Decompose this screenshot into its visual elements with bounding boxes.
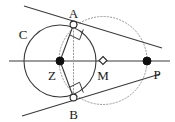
label-circle-c: C — [19, 27, 28, 42]
label-point-m: M — [97, 68, 109, 83]
radius-segment-zb — [60, 61, 74, 98]
point-marker-p — [143, 57, 151, 65]
point-marker-b — [70, 94, 77, 101]
geometry-diagram: C Z A B M P — [0, 0, 175, 122]
right-angle-marker-at-a — [70, 29, 84, 39]
point-marker-a — [70, 21, 77, 28]
point-marker-z — [56, 57, 64, 65]
label-point-b: B — [69, 107, 78, 122]
tangent-line-through-a — [24, 6, 162, 48]
point-marker-m — [99, 57, 107, 65]
figure-canvas: C Z A B M P — [0, 0, 175, 122]
label-point-z: Z — [48, 68, 56, 83]
label-point-p: P — [153, 67, 160, 82]
label-point-a: A — [69, 6, 79, 21]
radius-segment-za — [60, 25, 74, 62]
